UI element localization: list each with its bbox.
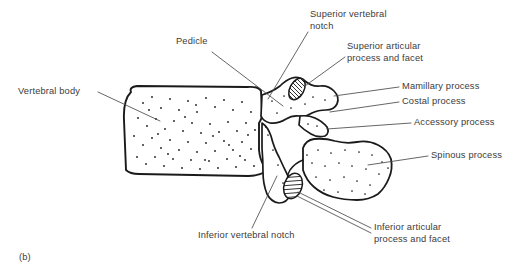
label-superior-vertebral-notch: Superior vertebral notch [310,9,387,32]
leader-costal [330,102,399,112]
label-spinous-process: Spinous process [431,150,502,162]
leader-inferior-articular-b [297,196,371,233]
label-costal-process: Costal process [402,96,466,108]
spinous-process-outline [287,139,391,200]
label-pedicle: Pedicle [176,36,208,48]
leader-superior-articular [305,57,345,86]
figure-panel: Vertebral body Pedicle Superior vertebra… [0,0,528,271]
label-vertebral-body: Vertebral body [18,86,80,98]
label-superior-articular-process: Superior articular process and facet [347,41,423,64]
figure-caption: (b) [19,252,31,264]
leader-mamillary [334,87,399,96]
label-mamillary-process: Mamillary process [402,81,479,93]
vertebral-body-outline [124,86,265,176]
label-accessory-process: Accessory process [414,117,495,129]
leader-accessory [327,123,411,129]
label-inferior-vertebral-notch: Inferior vertebral notch [198,230,295,242]
label-inferior-articular-process: Inferior articular process and facet [374,222,450,245]
